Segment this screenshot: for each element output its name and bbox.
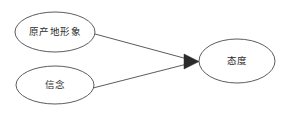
diagram-canvas: 原产地形象 信念 态度 bbox=[0, 0, 288, 122]
edge-origin-image-to-attitude bbox=[95, 34, 193, 61]
edge-belief-to-attitude bbox=[93, 63, 193, 89]
path-model-diagram: 原产地形象 信念 态度 bbox=[0, 0, 288, 122]
arrowhead-icon bbox=[184, 54, 199, 69]
node-origin-image-label: 原产地形象 bbox=[29, 26, 81, 37]
node-attitude-label: 态度 bbox=[227, 55, 248, 66]
node-belief-label: 信念 bbox=[45, 79, 66, 90]
